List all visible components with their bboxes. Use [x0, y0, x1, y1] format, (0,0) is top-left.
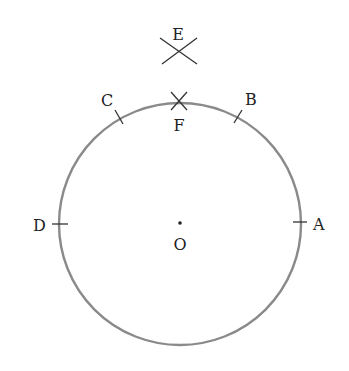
label-e: E: [172, 25, 184, 44]
label-c: C: [101, 91, 113, 110]
label-a: A: [312, 215, 325, 234]
label-d: D: [33, 216, 46, 235]
center-point-o: [178, 221, 182, 225]
label-o: O: [173, 235, 186, 254]
label-b: B: [245, 90, 257, 109]
construction-diagram: O A D B C F E: [0, 0, 349, 371]
label-f: F: [173, 116, 184, 135]
